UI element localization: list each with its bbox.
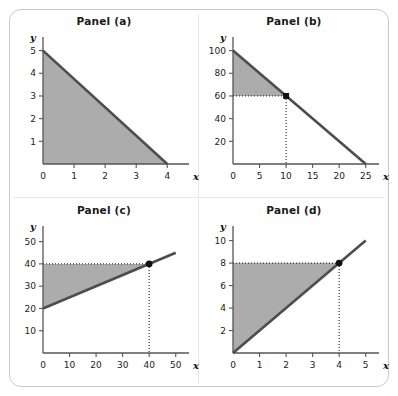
panel-a-x-tick-label: 0 xyxy=(40,171,46,181)
panel-a-x-tick-label: 4 xyxy=(164,171,170,181)
panel-c-y-tick-label: 30 xyxy=(25,281,37,291)
panel-b-y-tick-label: 40 xyxy=(215,114,227,124)
panel-c-x-tick-label: 0 xyxy=(40,360,46,370)
panel-c-y-axis-label: y xyxy=(29,221,37,232)
panel-a-y-tick-label: 2 xyxy=(30,114,36,124)
panel-b-x-tick-label: 0 xyxy=(230,171,236,181)
panel-b-x-tick-label: 5 xyxy=(257,171,263,181)
panel-a: Panel (a) 1234501234yx xyxy=(9,9,199,198)
panel-a-y-tick-label: 1 xyxy=(30,137,36,147)
panel-c-x-tick-label: 20 xyxy=(90,360,102,370)
panel-c-x-tick-label: 10 xyxy=(64,360,76,370)
panel-c: Panel (c) 102030405001020304050yx xyxy=(9,198,199,387)
panel-b-y-tick-label: 100 xyxy=(209,46,226,56)
panel-a-y-axis-label: y xyxy=(29,32,37,43)
panel-b-plot: 204060801000510152025yx xyxy=(199,9,389,198)
panel-d-x-tick-label: 1 xyxy=(257,360,263,370)
panel-d: Panel (d) 246810012345yx xyxy=(199,198,389,387)
panel-a-plot: 1234501234yx xyxy=(9,9,199,198)
panel-a-y-tick-label: 4 xyxy=(30,68,36,78)
panel-a-y-tick-label: 3 xyxy=(30,91,36,101)
panel-c-x-tick-label: 50 xyxy=(170,360,182,370)
panel-b-x-tick-label: 10 xyxy=(280,171,292,181)
panel-c-x-tick-label: 30 xyxy=(117,360,129,370)
panel-d-y-tick-label: 4 xyxy=(220,303,226,313)
panel-d-y-tick-label: 2 xyxy=(220,326,226,336)
panel-d-x-tick-label: 5 xyxy=(363,360,369,370)
panel-b-y-tick-label: 60 xyxy=(215,91,227,101)
panel-b-data-point-marker xyxy=(283,93,289,99)
panel-d-y-tick-label: 8 xyxy=(220,258,226,268)
panel-d-y-tick-label: 10 xyxy=(215,236,227,246)
panel-c-x-tick-label: 40 xyxy=(143,360,155,370)
panel-d-x-axis-label: x xyxy=(382,360,390,371)
panel-b-y-axis-label: y xyxy=(219,32,227,43)
figure-container: Panel (a) 1234501234yx Panel (b) 2040608… xyxy=(0,0,398,396)
panel-c-y-tick-label: 20 xyxy=(25,304,37,314)
panel-c-data-point-marker xyxy=(146,261,153,268)
panel-d-y-tick-label: 6 xyxy=(220,281,226,291)
panel-d-plot: 246810012345yx xyxy=(199,198,389,387)
panel-a-y-tick-label: 5 xyxy=(30,46,36,56)
panel-b-x-tick-label: 20 xyxy=(333,171,345,181)
panel-b-x-axis-label: x xyxy=(382,171,390,182)
panel-grid: Panel (a) 1234501234yx Panel (b) 2040608… xyxy=(9,9,389,387)
panel-b-x-tick-label: 25 xyxy=(360,171,371,181)
panel-d-data-point-marker xyxy=(336,260,343,267)
panel-c-y-tick-label: 10 xyxy=(25,326,37,336)
panel-d-x-tick-label: 2 xyxy=(283,360,289,370)
panel-d-y-axis-label: y xyxy=(219,221,227,232)
panel-b-y-tick-label: 80 xyxy=(215,68,227,78)
panel-b: Panel (b) 204060801000510152025yx xyxy=(199,9,389,198)
panel-b-x-tick-label: 15 xyxy=(307,171,318,181)
panel-c-y-tick-label: 40 xyxy=(25,259,37,269)
panel-c-y-tick-label: 50 xyxy=(25,237,37,247)
panel-b-y-tick-label: 20 xyxy=(215,137,227,147)
panel-d-x-tick-label: 4 xyxy=(336,360,342,370)
panel-a-x-tick-label: 3 xyxy=(133,171,139,181)
panel-d-x-tick-label: 3 xyxy=(310,360,316,370)
panel-a-x-tick-label: 2 xyxy=(102,171,108,181)
panel-d-x-tick-label: 0 xyxy=(230,360,236,370)
panel-b-line xyxy=(233,51,366,164)
panel-c-plot: 102030405001020304050yx xyxy=(9,198,199,387)
panel-a-x-tick-label: 1 xyxy=(71,171,77,181)
